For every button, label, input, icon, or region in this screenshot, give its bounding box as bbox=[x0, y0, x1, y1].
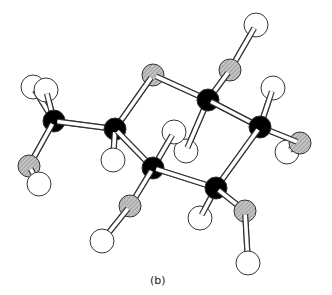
molecule-diagram bbox=[0, 0, 332, 295]
hydrogen-atom-h3 bbox=[244, 13, 268, 37]
figure-caption: (b) bbox=[150, 274, 166, 287]
hydrogen-atom-hc2 bbox=[162, 120, 186, 144]
hydrogen-atom-h2o bbox=[90, 229, 114, 253]
hydrogen-atom-h6o bbox=[236, 251, 260, 275]
atoms bbox=[18, 13, 311, 275]
hydrogen-atom-h6 bbox=[188, 206, 212, 230]
hydrogen-atom-h1c bbox=[27, 172, 51, 196]
hydrogen-atom-h2 bbox=[101, 148, 125, 172]
carbon-atom-c3 bbox=[197, 89, 219, 111]
